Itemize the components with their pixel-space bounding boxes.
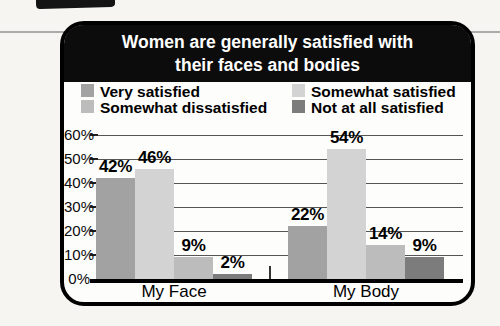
- legend-label: Very satisfied: [100, 84, 200, 99]
- chart-title: Women are generally satisfied with their…: [64, 25, 471, 82]
- y-axis-label: 0%: [64, 270, 90, 288]
- bar-value-label: 54%: [317, 128, 377, 148]
- category-divider-tick: [269, 266, 271, 279]
- y-axis-label: 20%: [64, 222, 90, 240]
- y-axis-label: 60%: [64, 126, 90, 144]
- legend-swatch: [292, 100, 305, 113]
- bar-my-face-somewhat-satisfied: [135, 169, 174, 279]
- bar-value-label: 46%: [125, 148, 185, 168]
- x-category-label: My Face: [96, 282, 252, 302]
- bar-value-label: 2%: [203, 253, 263, 273]
- bar-my-body-not-at-all-satisfied: [405, 257, 444, 279]
- legend-label: Not at all satisfied: [311, 100, 444, 115]
- chart-title-line2: their faces and bodies: [64, 54, 471, 77]
- bar-my-body-somewhat-satisfied: [327, 149, 366, 279]
- y-axis-label: 10%: [64, 246, 90, 264]
- page: { "title": { "line1": "Women are general…: [0, 0, 500, 326]
- ink-smudge: [36, 0, 115, 9]
- chart-title-line1: Women are generally satisfied with: [64, 25, 471, 54]
- legend-label: Somewhat satisfied: [311, 84, 456, 99]
- bar-my-body-very-satisfied: [288, 226, 327, 279]
- chart-panel: Women are generally satisfied with their…: [60, 21, 475, 306]
- x-category-label: My Body: [288, 282, 444, 302]
- bar-my-face-very-satisfied: [96, 178, 135, 279]
- y-gridline: [97, 135, 463, 136]
- legend-swatch: [81, 84, 94, 97]
- legend-swatch: [81, 100, 94, 113]
- bar-value-label: 9%: [395, 236, 455, 256]
- x-axis-line: [90, 279, 463, 283]
- legend-swatch: [292, 84, 305, 97]
- y-axis-label: 30%: [64, 198, 90, 216]
- legend-label: Somewhat dissatisfied: [100, 100, 267, 115]
